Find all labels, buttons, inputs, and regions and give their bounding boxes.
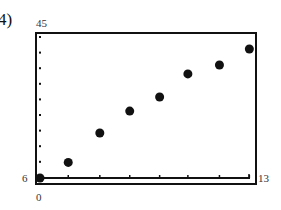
- y-tick-dot: [39, 83, 41, 85]
- y-tick-dot: [39, 130, 41, 132]
- data-point: [215, 60, 224, 69]
- data-point: [64, 158, 73, 167]
- y-tick-dot: [39, 52, 41, 54]
- data-point: [245, 44, 254, 53]
- y-tick-dot: [39, 98, 41, 100]
- scatter-plot: [0, 0, 281, 210]
- data-point: [183, 69, 192, 78]
- data-point: [155, 92, 164, 101]
- data-point: [95, 129, 104, 138]
- y-tick-dot: [39, 114, 41, 116]
- data-points: [36, 44, 254, 182]
- data-point: [125, 107, 134, 116]
- y-axis-tick-dots: [39, 36, 41, 163]
- y-tick-dot: [39, 161, 41, 163]
- data-point: [36, 174, 45, 183]
- y-tick-dot: [39, 145, 41, 147]
- y-tick-dot: [39, 36, 41, 38]
- y-tick-dot: [39, 67, 41, 69]
